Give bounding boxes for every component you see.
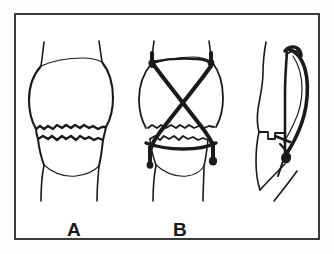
- figure-illustration: [16, 15, 322, 242]
- figure-root: A B: [0, 0, 334, 254]
- panel-c-drawing: [256, 42, 307, 201]
- figure-frame-border: A B: [14, 13, 320, 240]
- panel-a-drawing: [29, 41, 113, 201]
- panel-label-b: B: [173, 220, 187, 239]
- panel-b-drawing: [139, 41, 223, 201]
- panel-label-a: A: [67, 220, 81, 239]
